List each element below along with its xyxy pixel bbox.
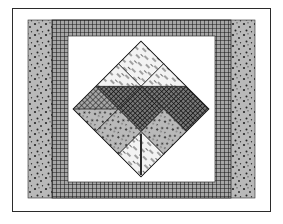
quilt-diagram-svg	[0, 0, 283, 224]
quilt-block-figure: Maple Leaf Quilt Block Diagram Maple lea…	[0, 0, 283, 224]
